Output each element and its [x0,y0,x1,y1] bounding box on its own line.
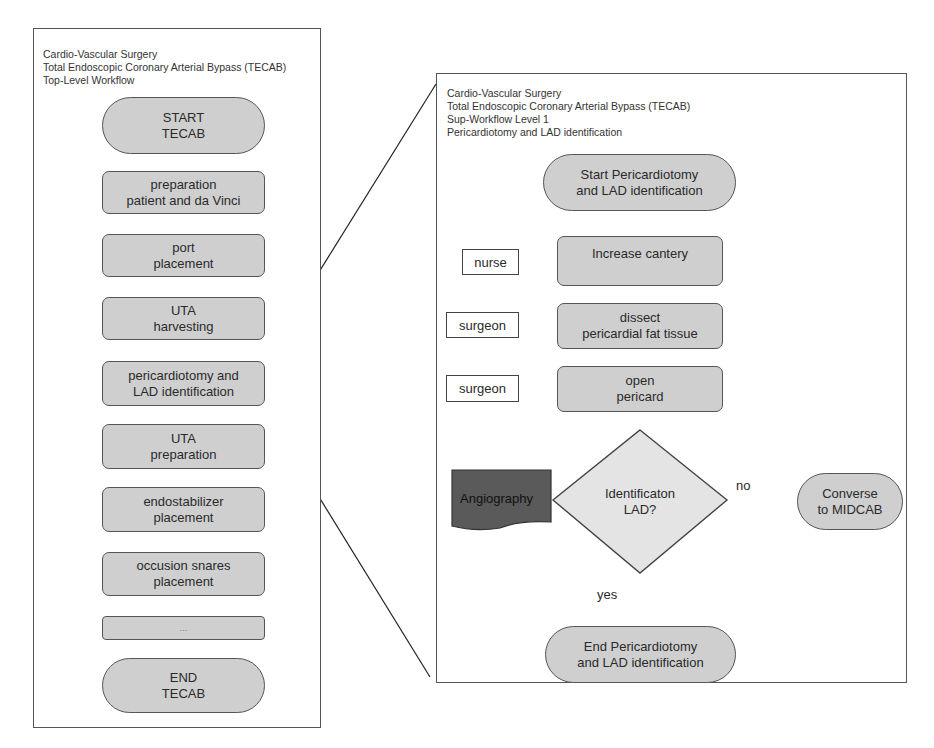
step-pericardiotomy[interactable]: pericardiotomy and LAD identification [102,361,265,406]
node-label: dissect [620,310,660,326]
step-preparation[interactable]: preparation patient and da Vinci [102,171,265,214]
branch-yes-label: yes [597,587,617,602]
node-label: START [163,110,204,126]
converse-midcab-terminal[interactable]: Converse to MIDCAB [797,473,903,530]
header-line: Cardio-Vascular Surgery [447,87,690,100]
decision-label[interactable]: Identificaton LAD? [590,486,690,518]
node-label: to MIDCAB [817,502,882,518]
step-uta-harvesting[interactable]: UTA harvesting [102,297,265,340]
node-label: and LAD identification [577,655,703,671]
node-label: occusion snares [137,558,231,574]
node-label: End Pericardiotomy [584,639,697,655]
node-label: placement [154,256,214,272]
node-label: TECAB [162,126,205,142]
node-label: preparation [151,177,217,193]
end-tecab-terminal[interactable]: END TECAB [102,658,265,713]
node-label: patient and da Vinci [127,193,241,209]
node-label: preparation [151,447,217,463]
role-surgeon-open[interactable]: surgeon [446,375,519,402]
node-label: Increase cantery [592,246,688,262]
step-open-pericard[interactable]: open pericard [557,366,723,412]
node-label: endostabilizer [143,494,223,510]
end-pericardiotomy-terminal[interactable]: End Pericardiotomy and LAD identificatio… [545,626,736,683]
node-label: Converse [822,486,878,502]
header-line: Pericardiotomy and LAD identification [447,126,690,139]
decision-text: Identificaton [590,486,690,502]
top-level-header: Cardio-Vascular Surgery Total Endoscopic… [43,48,286,87]
sub-workflow-header: Cardio-Vascular Surgery Total Endoscopic… [447,87,690,139]
step-dissect-fat-tissue[interactable]: dissect pericardial fat tissue [557,303,723,349]
node-label: END [170,670,197,686]
node-label: harvesting [154,319,214,335]
node-label: UTA [171,303,196,319]
node-label: LAD identification [133,384,234,400]
node-label: port [172,240,194,256]
step-ellipsis[interactable]: ... [102,616,265,640]
node-label: and LAD identification [576,183,702,199]
node-label: pericardiotomy and [128,368,239,384]
header-line: Top-Level Workflow [43,74,286,87]
role-surgeon-dissect[interactable]: surgeon [446,312,519,338]
node-label: TECAB [162,686,205,702]
step-uta-preparation[interactable]: UTA preparation [102,424,265,469]
step-occlusion-snares[interactable]: occusion snares placement [102,552,265,596]
start-tecab-terminal[interactable]: START TECAB [102,97,265,154]
header-line: Cardio-Vascular Surgery [43,48,286,61]
step-increase-cantery[interactable]: Increase cantery [557,236,723,286]
node-label: pericard [617,389,664,405]
angiography-document[interactable]: Angiography [460,491,533,506]
node-label: ... [180,620,188,636]
header-line: Total Endoscopic Coronary Arterial Bypas… [447,100,690,113]
role-nurse[interactable]: nurse [462,249,519,275]
node-label: open [626,373,655,389]
step-port-placement[interactable]: port placement [102,234,265,277]
step-endostabilizer[interactable]: endostabilizer placement [102,487,265,532]
header-line: Total Endoscopic Coronary Arterial Bypas… [43,61,286,74]
decision-text: LAD? [590,502,690,518]
node-label: Start Pericardiotomy [581,167,699,183]
node-label: UTA [171,431,196,447]
header-line: Sup-Workflow Level 1 [447,113,690,126]
node-label: pericardial fat tissue [582,326,698,342]
node-label: placement [154,574,214,590]
start-pericardiotomy-terminal[interactable]: Start Pericardiotomy and LAD identificat… [543,154,736,211]
branch-no-label: no [736,478,750,493]
node-label: placement [154,510,214,526]
